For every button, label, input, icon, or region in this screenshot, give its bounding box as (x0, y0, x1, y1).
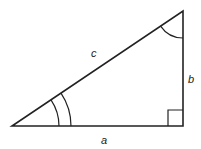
angle-arc-inner (51, 100, 59, 126)
side-label-a: a (101, 134, 107, 146)
right-triangle-diagram: c b a (0, 0, 201, 149)
angle-arc-top (161, 26, 183, 38)
triangle-outline (12, 11, 183, 126)
angle-arc-outer (61, 93, 71, 126)
side-label-c: c (91, 47, 97, 59)
side-label-b: b (188, 73, 194, 85)
right-angle-marker (168, 110, 183, 126)
